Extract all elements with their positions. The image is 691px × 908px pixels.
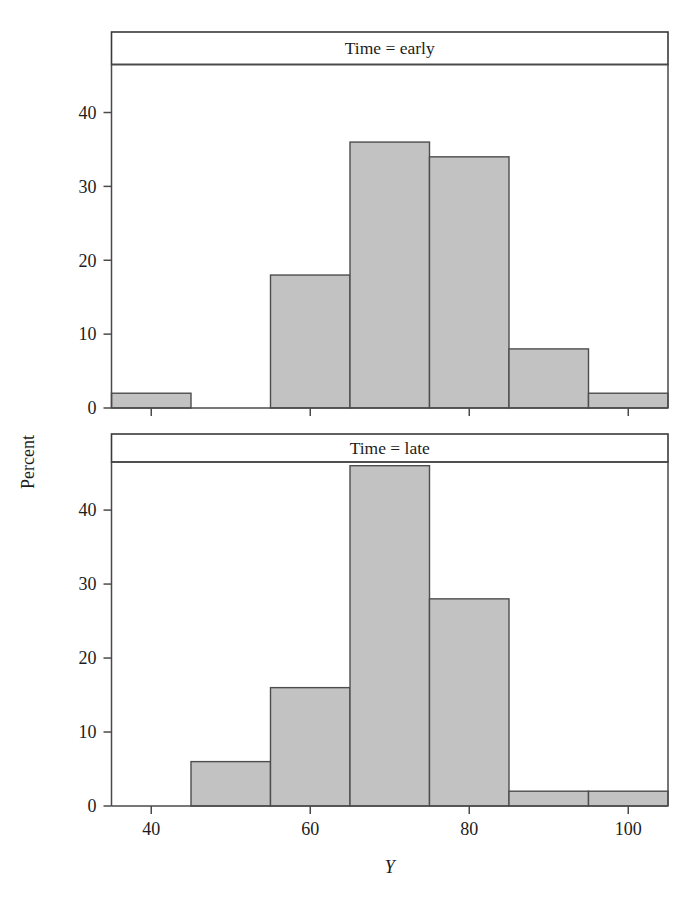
histogram-bar xyxy=(430,599,510,806)
y-tick-label: 0 xyxy=(88,796,97,816)
histogram-bar xyxy=(430,157,510,408)
y-tick-label: 10 xyxy=(79,324,97,344)
x-tick-label: 80 xyxy=(460,819,478,839)
y-tick-label: 30 xyxy=(79,177,97,197)
x-tick-label: 100 xyxy=(615,819,642,839)
x-axis-title: Y xyxy=(385,857,397,877)
y-tick-label: 0 xyxy=(88,398,97,418)
y-tick-label: 10 xyxy=(79,722,97,742)
panel-strip-label-1: Time = late xyxy=(350,438,430,458)
histogram-bar xyxy=(271,275,351,408)
histogram-bar xyxy=(350,142,430,408)
histogram-bar xyxy=(589,791,669,806)
y-axis-title: Percent xyxy=(18,435,38,489)
x-tick-label: 40 xyxy=(142,819,160,839)
y-tick-label: 30 xyxy=(79,574,97,594)
histogram-bar xyxy=(191,762,271,806)
histogram-svg: Time = early010203040Time = late01020304… xyxy=(0,0,691,908)
histogram-bar xyxy=(509,349,589,408)
y-tick-label: 40 xyxy=(79,500,97,520)
histogram-bar xyxy=(589,393,669,408)
y-tick-label: 20 xyxy=(79,648,97,668)
histogram-bar xyxy=(509,791,589,806)
histogram-bar xyxy=(350,466,430,806)
histogram-figure: Time = early010203040Time = late01020304… xyxy=(0,0,691,908)
histogram-bar xyxy=(112,393,192,408)
histogram-bar xyxy=(271,688,351,806)
y-tick-label: 40 xyxy=(79,103,97,123)
x-tick-label: 60 xyxy=(301,819,319,839)
panel-strip-label-0: Time = early xyxy=(345,38,435,58)
y-tick-label: 20 xyxy=(79,251,97,271)
